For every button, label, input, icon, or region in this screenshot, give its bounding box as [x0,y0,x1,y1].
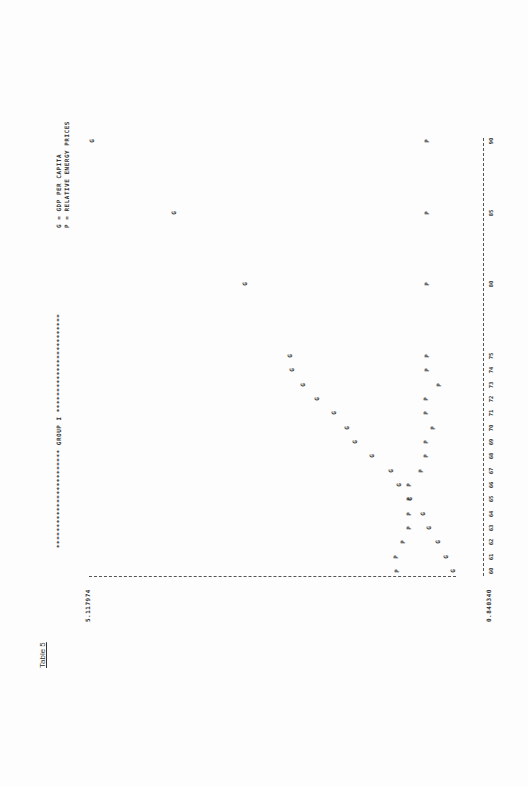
point-p: P [423,397,429,401]
year-axis [483,138,485,576]
year-tick: 70 [488,424,494,431]
year-tick: 69 [488,439,494,446]
point-p: P [423,455,429,459]
year-tick: 85 [488,209,494,216]
point-p: P [406,512,412,516]
point-g: G [435,541,441,545]
point-p: P [424,139,430,143]
year-tick: 75 [488,353,494,360]
point-p: P [424,211,430,215]
table-label: Table 5 [38,642,47,668]
group-banner: ************************ GROUP I *******… [55,314,62,548]
point-g: G [344,426,350,430]
year-tick: 65 [488,496,494,503]
year-tick: 61 [488,553,494,560]
point-p: P [406,483,412,487]
point-g: G [242,283,248,287]
point-p: P [406,498,412,502]
point-p: P [424,283,430,287]
year-tick: 66 [488,482,494,489]
point-g: G [396,483,402,487]
year-tick: 64 [488,510,494,517]
point-p: P [418,469,424,473]
point-p: P [406,526,412,530]
year-tick: 74 [488,367,494,374]
year-tick: 60 [488,568,494,575]
point-g: G [419,512,425,516]
point-g: G [352,440,358,444]
point-p: P [424,369,430,373]
point-p: P [423,412,429,416]
point-g: G [443,555,449,559]
y-max-label: 5.117974 [84,589,91,622]
legend-p: P = RELATIVE ENERGY PRICES [63,121,70,228]
value-axis [89,576,456,578]
point-p: P [394,569,400,573]
scanned-page: Table 5 ************************ GROUP I… [0,0,528,786]
year-tick: 71 [488,410,494,417]
point-g: G [287,354,293,358]
point-g: G [314,397,320,401]
point-g: G [171,211,177,215]
year-tick: 63 [488,525,494,532]
point-p: P [435,383,441,387]
year-tick: 80 [488,281,494,288]
point-p: P [392,555,398,559]
year-tick: 67 [488,467,494,474]
point-g: G [289,369,295,373]
point-p: P [423,440,429,444]
year-tick: 73 [488,381,494,388]
year-tick: 68 [488,453,494,460]
point-g: G [450,569,456,573]
point-g: G [331,412,337,416]
year-tick: 90 [488,138,494,145]
point-p: P [430,426,436,430]
point-g: G [369,455,375,459]
point-g: G [387,469,393,473]
point-g: G [426,526,432,530]
y-min-label: 0.840340 [485,589,492,622]
point-p: P [400,541,406,545]
point-p: P [424,354,430,358]
point-g: G [89,139,95,143]
point-g: G [300,383,306,387]
legend-g: G = GDP PER CAPITA [55,154,62,228]
year-tick: 72 [488,396,494,403]
year-tick: 62 [488,539,494,546]
